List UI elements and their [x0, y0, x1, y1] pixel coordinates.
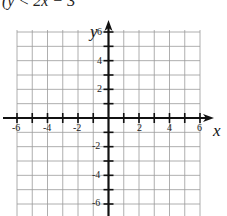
- x-tick-label: 2: [137, 122, 142, 133]
- y-tick-label: -2: [92, 140, 100, 151]
- x-tick-label: -6: [12, 122, 20, 133]
- x-tick-label: 6: [197, 122, 202, 133]
- axes: [3, 20, 214, 216]
- y-tick-label: -4: [92, 169, 100, 180]
- x-tick-label: 4: [167, 122, 172, 133]
- coordinate-plane-figure: (y < 2x − 3 y x -6 -4 -2 2 4 6 6 4 2 -2 …: [0, 0, 227, 216]
- x-axis-label: x: [213, 121, 221, 141]
- coordinate-grid: [0, 0, 227, 216]
- y-tick-label: 2: [97, 83, 102, 94]
- y-tick-label: 6: [97, 26, 102, 37]
- y-tick-label: -6: [92, 197, 100, 208]
- x-tick-label: -4: [43, 122, 51, 133]
- x-tick-label: -2: [73, 122, 81, 133]
- y-tick-label: 4: [97, 55, 102, 66]
